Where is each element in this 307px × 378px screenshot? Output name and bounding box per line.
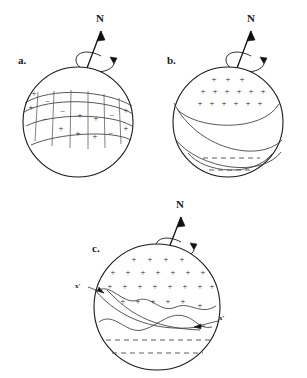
charge-sign: +: [32, 88, 37, 98]
charge-sign: +: [197, 98, 202, 108]
charge-sign: +: [233, 98, 238, 108]
charge-sign: +: [209, 98, 214, 108]
charge-sign: +: [257, 98, 262, 108]
charge-sign: +: [210, 281, 215, 291]
panel-b-label: b.: [167, 54, 176, 66]
charge-sign: +: [132, 254, 137, 264]
axis-arrowhead: [247, 31, 255, 41]
charge-sign: +: [164, 254, 169, 264]
charge-sign: +: [224, 86, 229, 96]
charge-sign: +: [29, 102, 34, 112]
figure-canvas: a. N + + − − −: [0, 0, 307, 378]
charge-sign: +: [136, 296, 141, 306]
charge-sign: −: [46, 96, 51, 106]
charge-sign: +: [181, 296, 186, 306]
charge-sign: +: [225, 74, 230, 84]
rotation-arrowhead: [260, 57, 267, 64]
charge-sign: +: [124, 105, 129, 115]
charge-sign: +: [59, 123, 64, 133]
panel-b-axis-label: N: [247, 12, 255, 24]
charge-sign: +: [111, 267, 116, 277]
charge-sign: +: [200, 86, 205, 96]
x-prime-left-label: x': [75, 282, 81, 290]
panel-b: b. N + + + + + + + + + + + +: [167, 12, 283, 177]
charge-sign: +: [76, 128, 81, 138]
charge-sign: +: [260, 86, 265, 96]
panel-a: a. N + + − − −: [18, 12, 133, 177]
charge-sign: +: [168, 281, 173, 291]
charge-sign: +: [201, 267, 206, 277]
charge-sign: +: [156, 267, 161, 277]
charge-sign: +: [126, 267, 131, 277]
charge-sign: +: [108, 281, 113, 291]
x-prime-right-label: x': [219, 314, 225, 322]
charge-sign: +: [153, 281, 158, 291]
charge-sign: +: [93, 131, 98, 141]
rotation-arrowhead: [190, 243, 197, 250]
charge-sign: −: [61, 106, 66, 116]
axis-arrowhead: [97, 31, 105, 41]
charge-sign: +: [151, 296, 156, 306]
charge-sign: +: [138, 281, 143, 291]
charge-sign: +: [211, 74, 216, 84]
panel-c: c. N + + + + + + + + + + + +: [75, 198, 225, 370]
charge-sign: +: [166, 296, 171, 306]
panel-a-label: a.: [18, 54, 27, 66]
charge-sign: −: [109, 128, 114, 138]
charge-sign: +: [248, 86, 253, 96]
axis-arrowhead: [177, 217, 185, 227]
charge-sign: +: [245, 98, 250, 108]
charge-sign: +: [121, 296, 126, 306]
charge-sign: +: [239, 74, 244, 84]
charge-sign: +: [180, 254, 185, 264]
charge-sign: +: [198, 281, 203, 291]
panel-a-sphere: [23, 67, 133, 177]
charge-sign: +: [186, 267, 191, 277]
panel-c-axis-label: N: [176, 198, 184, 210]
charge-sign: +: [171, 267, 176, 277]
charge-sign: +: [148, 254, 153, 264]
panel-a-axis-label: N: [96, 12, 104, 24]
charge-sign: +: [183, 281, 188, 291]
rotation-arrowhead: [110, 57, 117, 64]
charge-sign: +: [198, 300, 203, 310]
charge-sign: +: [94, 113, 99, 123]
charge-sign: +: [123, 281, 128, 291]
panel-c-label: c.: [92, 242, 100, 254]
charge-sign: −: [110, 110, 115, 120]
charge-sign: +: [221, 98, 226, 108]
charge-sign: +: [236, 86, 241, 96]
charge-sign: +: [212, 86, 217, 96]
charge-sign: +: [124, 123, 129, 133]
charge-sign: +: [141, 267, 146, 277]
charge-sign: +: [78, 110, 83, 120]
charge-sign: −: [43, 114, 48, 124]
